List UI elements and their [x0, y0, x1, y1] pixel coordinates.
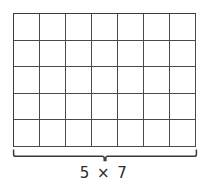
array-cell [14, 120, 40, 147]
array-cell [118, 120, 144, 147]
array-cell [170, 14, 196, 41]
array-label: 5 × 7 [0, 163, 208, 182]
array-cell [40, 120, 66, 147]
array-cell [144, 14, 170, 41]
array-cell [66, 41, 92, 68]
array-cell [14, 94, 40, 121]
array-cell [40, 14, 66, 41]
array-cell [40, 94, 66, 121]
array-cell [118, 67, 144, 94]
array-cell [170, 41, 196, 68]
array-cell [118, 94, 144, 121]
array-cell [170, 120, 196, 147]
array-cell [118, 41, 144, 68]
array-cell [92, 41, 118, 68]
array-cell [66, 14, 92, 41]
array-cell [118, 14, 144, 41]
array-cell [144, 67, 170, 94]
array-cell [144, 120, 170, 147]
array-cell [14, 41, 40, 68]
array-cell [170, 94, 196, 121]
array-cell [14, 14, 40, 41]
array-cell [170, 67, 196, 94]
array-cell [66, 67, 92, 94]
array-cell [66, 120, 92, 147]
array-cell [144, 41, 170, 68]
array-cell [144, 94, 170, 121]
array-cell [66, 94, 92, 121]
array-cell [40, 41, 66, 68]
array-cell [92, 14, 118, 41]
array-cell [92, 67, 118, 94]
array-diagram: 5 × 7 [0, 0, 208, 187]
array-cell [92, 120, 118, 147]
array-label-text: 5 × 7 [80, 164, 129, 182]
array-cell [14, 67, 40, 94]
array-cell [92, 94, 118, 121]
array-cell [40, 67, 66, 94]
array-grid [13, 13, 196, 147]
